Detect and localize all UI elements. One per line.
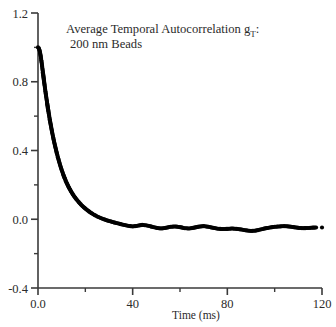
y-tick-label: 1.2 <box>12 7 28 21</box>
y-tick-label: -0.4 <box>8 282 29 296</box>
x-tick-label: 40 <box>126 297 139 311</box>
plot-canvas: 1.20.80.40.0-0.4 0.04080120 Time (ms) <box>0 0 336 327</box>
x-tick-label: 120 <box>313 297 332 311</box>
y-axis-tick-labels: 1.20.80.40.0-0.4 <box>8 7 29 296</box>
x-tick-label: 80 <box>221 297 234 311</box>
y-axis-major-ticks <box>31 13 38 288</box>
y-axis: 1.20.80.40.0-0.4 <box>8 7 38 296</box>
y-tick-label: 0.8 <box>12 75 28 89</box>
y-tick-label: 0.4 <box>12 144 28 158</box>
chart-figure: Average Temporal Autocorrelation gT: 200… <box>0 0 336 327</box>
data-series-gt <box>36 45 324 233</box>
x-tick-label: 0.0 <box>30 297 46 311</box>
x-axis: 0.04080120 <box>30 288 331 311</box>
x-axis-title: Time (ms) <box>172 309 220 322</box>
y-tick-label: 0.0 <box>12 213 28 227</box>
